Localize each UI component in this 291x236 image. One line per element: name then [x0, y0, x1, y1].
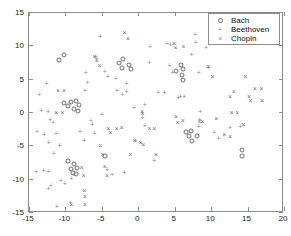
legend-box[interactable]: Bach + Beethoven × Chopin — [208, 13, 280, 45]
data-point-beethoven: + — [192, 32, 198, 38]
data-point-bach — [190, 138, 195, 143]
x-tick-top — [65, 12, 66, 16]
y-tick — [29, 212, 33, 213]
data-point-beethoven: + — [193, 40, 199, 46]
data-point-bach — [61, 53, 66, 58]
y-tick — [29, 112, 33, 113]
data-point-bach — [129, 66, 134, 71]
data-point-beethoven: + — [84, 80, 90, 86]
cross-marker-icon: × — [209, 34, 231, 43]
data-point-beethoven: + — [170, 70, 176, 76]
data-point-chopin: × — [81, 173, 87, 179]
data-point-chopin: × — [82, 194, 88, 200]
x-tick-top — [102, 12, 103, 16]
data-point-beethoven: + — [151, 158, 157, 164]
data-point-chopin: × — [125, 36, 131, 42]
y-tick — [29, 45, 33, 46]
legend-label-bach: Bach — [231, 16, 249, 25]
data-point-chopin: × — [180, 118, 186, 124]
data-point-chopin: × — [199, 119, 205, 125]
data-point-beethoven: + — [147, 44, 153, 50]
legend-entry-beethoven: + Beethoven — [209, 25, 279, 34]
data-point-beethoven: + — [124, 81, 130, 87]
data-point-beethoven: + — [99, 112, 105, 118]
data-point-beethoven: + — [181, 94, 187, 100]
data-point-bach — [180, 72, 185, 77]
y-tick-right — [279, 79, 283, 80]
legend-label-beethoven: Beethoven — [231, 25, 269, 34]
data-point-beethoven: + — [41, 132, 47, 138]
y-tick — [29, 12, 33, 13]
x-tick — [102, 207, 103, 211]
x-tick-top — [138, 12, 139, 16]
data-point-beethoven: + — [33, 169, 39, 175]
data-point-chopin: × — [231, 89, 237, 95]
x-tick-label: 0 — [135, 214, 139, 223]
data-point-chopin: × — [227, 134, 233, 140]
data-point-beethoven: + — [36, 92, 42, 98]
data-point-chopin: × — [213, 116, 219, 122]
data-point-beethoven: + — [155, 90, 161, 96]
data-point-chopin: × — [97, 63, 103, 69]
plus-marker-icon: + — [209, 25, 231, 34]
data-point-chopin: × — [247, 98, 253, 104]
data-point-chopin: × — [210, 74, 216, 80]
data-point-chopin: × — [234, 110, 240, 116]
data-point-beethoven: + — [57, 143, 63, 149]
x-tick-label: 5 — [171, 214, 175, 223]
data-point-chopin: × — [259, 98, 265, 104]
data-point-bach — [180, 78, 185, 83]
x-tick — [138, 207, 139, 211]
data-point-chopin: × — [252, 86, 258, 92]
data-point-beethoven: + — [131, 105, 137, 111]
data-point-chopin: × — [205, 64, 211, 70]
x-tick-label: 15 — [242, 214, 251, 223]
data-point-beethoven: + — [167, 63, 173, 69]
x-tick-label: 20 — [279, 214, 288, 223]
data-point-chopin: × — [60, 110, 66, 116]
legend-entry-bach: Bach — [209, 16, 279, 25]
data-point-beethoven: + — [196, 70, 202, 76]
y-tick-label: -10 — [2, 174, 24, 183]
data-point-chopin: × — [82, 202, 88, 208]
x-tick — [284, 207, 285, 211]
data-point-beethoven: + — [203, 45, 209, 51]
data-point-beethoven: + — [196, 124, 202, 130]
y-tick-right — [279, 112, 283, 113]
x-tick — [248, 207, 249, 211]
x-tick — [65, 207, 66, 211]
data-point-beethoven: + — [97, 34, 103, 40]
y-tick — [29, 145, 33, 146]
data-point-chopin: × — [180, 44, 186, 50]
data-point-beethoven: + — [89, 122, 95, 128]
x-tick — [211, 207, 212, 211]
data-point-beethoven: + — [43, 81, 49, 87]
data-point-chopin: × — [97, 143, 103, 149]
circle-marker-icon — [209, 16, 231, 25]
data-point-chopin: × — [102, 164, 108, 170]
legend-label-chopin: Chopin — [231, 34, 256, 43]
x-tick-label: -5 — [97, 214, 104, 223]
data-point-beethoven: + — [46, 186, 52, 192]
data-point-beethoven: + — [92, 131, 98, 137]
data-point-beethoven: + — [188, 52, 194, 58]
data-point-chopin: × — [240, 122, 246, 128]
data-point-chopin: × — [78, 165, 84, 171]
data-point-bach — [239, 154, 244, 159]
y-tick — [29, 79, 33, 80]
y-tick-right — [279, 179, 283, 180]
data-point-beethoven: + — [50, 120, 56, 126]
y-tick-label: 10 — [2, 41, 24, 50]
data-point-beethoven: + — [162, 90, 168, 96]
data-point-beethoven: + — [197, 109, 203, 115]
data-point-chopin: × — [172, 45, 178, 51]
y-tick-label: -5 — [2, 141, 24, 150]
data-point-beethoven: + — [38, 108, 44, 114]
x-tick — [175, 207, 176, 211]
y-tick-label: 5 — [2, 74, 24, 83]
data-point-beethoven: + — [227, 125, 233, 131]
x-tick-top — [284, 12, 285, 16]
y-tick-label: 0 — [2, 108, 24, 117]
data-point-chopin: × — [140, 142, 146, 148]
data-point-beethoven: + — [46, 140, 52, 146]
